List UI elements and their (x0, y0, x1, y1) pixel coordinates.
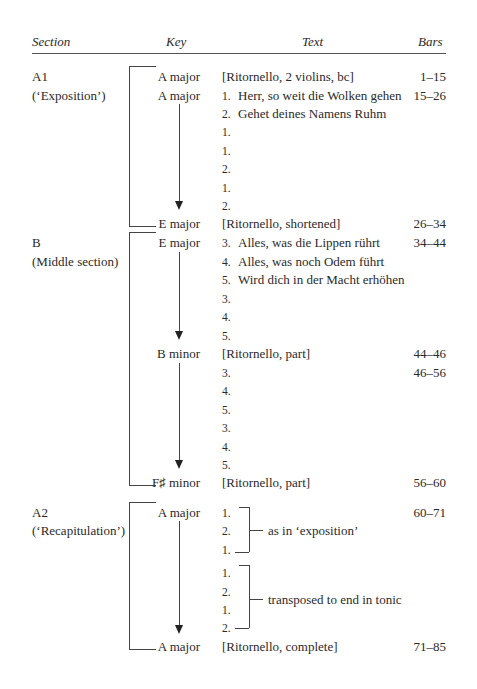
stanza-bracket-bottom (235, 628, 249, 629)
stanza-number: 3. (222, 235, 231, 251)
key-cell: B minor (90, 346, 200, 362)
bars-cell: 71–85 (386, 639, 446, 655)
stanza-bracket-bottom (235, 552, 249, 553)
key-cell: E major (90, 235, 200, 251)
stanza-number: 2. (222, 620, 231, 636)
bars-cell: 26–34 (386, 216, 446, 232)
stanza-number: 4. (222, 254, 231, 270)
header-section: Section (32, 34, 70, 50)
stanza-number: 4. (222, 439, 231, 455)
stanza-number: 1. (222, 602, 231, 618)
text-cell: [Ritornello, shortened] (222, 216, 340, 232)
stanza-number: 2. (222, 198, 231, 214)
key-bracket-spine (129, 502, 130, 649)
stanza-number: 3. (222, 291, 231, 307)
header-rule (32, 53, 446, 54)
section-subtitle-b: (Middle section) (32, 254, 118, 270)
stanza-number: 1. (222, 565, 231, 581)
text-cell: Wird dich in der Macht erhöhen (238, 272, 405, 288)
section-label-a1: A1 (32, 69, 48, 85)
stanza-bracket-top (239, 507, 249, 508)
arrow-down-icon (175, 201, 183, 210)
stanza-number: 1. (222, 505, 231, 521)
stanza-bracket-tick (249, 530, 263, 531)
stanza-number: 1. (222, 180, 231, 196)
section-label-b: B (32, 235, 41, 251)
modulation-arrow-line (179, 252, 180, 332)
header-bars: Bars (418, 34, 443, 50)
text-cell: [Ritornello, part] (222, 475, 310, 491)
header-key: Key (166, 34, 186, 50)
stanza-number: 4. (222, 309, 231, 325)
stanza-number: 1. (222, 124, 231, 140)
text-cell: Alles, was noch Odem führt (238, 254, 384, 270)
stanza-number: 5. (222, 328, 231, 344)
bars-cell: 34–44 (386, 235, 446, 251)
bars-cell: 1–15 (386, 69, 446, 85)
bars-cell: 46–56 (386, 365, 446, 381)
bars-cell: 56–60 (386, 475, 446, 491)
key-bracket-bottom (129, 226, 156, 227)
key-cell: A major (90, 505, 200, 521)
bars-cell: 44–46 (386, 346, 446, 362)
stanza-number: 4. (222, 383, 231, 399)
stanza-number: 2. (222, 161, 231, 177)
stanza-number: 1. (222, 143, 231, 159)
key-cell: A major (90, 639, 200, 655)
stanza-bracket-spine (249, 565, 250, 628)
key-cell: A major (90, 88, 200, 104)
stanza-number: 5. (222, 457, 231, 473)
section-label-a2: A2 (32, 505, 48, 521)
stanza-bracket-tick (249, 599, 263, 600)
text-cell: [Ritornello, part] (222, 346, 310, 362)
text-cell: Alles, was die Lippen rührt (238, 235, 380, 251)
arrow-down-icon (175, 331, 183, 340)
key-cell: E major (90, 216, 200, 232)
key-bracket-spine (129, 66, 130, 226)
bars-cell: 60–71 (386, 505, 446, 521)
stanza-number: 3. (222, 365, 231, 381)
stanza-number: 2. (222, 584, 231, 600)
header-text: Text (302, 34, 323, 50)
stanza-number: 1. (222, 542, 231, 558)
stanza-number: 5. (222, 272, 231, 288)
arrow-down-icon (175, 625, 183, 634)
bracket-note: transposed to end in tonic (268, 592, 402, 608)
bars-cell: 15–26 (386, 88, 446, 104)
modulation-arrow-line (179, 521, 180, 626)
bracket-note: as in ‘exposition’ (268, 523, 358, 539)
stanza-number: 1. (222, 88, 231, 104)
stanza-number: 5. (222, 402, 231, 418)
key-bracket-top (129, 66, 156, 67)
modulation-arrow-line (179, 363, 180, 461)
key-bracket-top (129, 232, 156, 233)
text-cell: [Ritornello, complete] (222, 639, 338, 655)
stanza-number: 3. (222, 420, 231, 436)
section-subtitle-a2: (‘Recapitulation’) (32, 523, 125, 539)
modulation-arrow-line (179, 104, 180, 202)
stanza-number: 2. (222, 523, 231, 539)
key-bracket-top (129, 502, 156, 503)
text-cell: Herr, so weit die Wolken gehen (238, 88, 402, 104)
key-cell: F♯ minor (90, 475, 200, 491)
stanza-bracket-top (239, 565, 249, 566)
key-cell: A major (90, 69, 200, 85)
arrow-down-icon (175, 460, 183, 469)
stanza-number: 2. (222, 106, 231, 122)
key-bracket-bottom (129, 649, 156, 650)
text-cell: [Ritornello, 2 violins, bc] (222, 69, 354, 85)
text-cell: Gehet deines Namens Ruhm (238, 106, 386, 122)
key-bracket-bottom (129, 485, 156, 486)
key-bracket-spine (129, 232, 130, 485)
